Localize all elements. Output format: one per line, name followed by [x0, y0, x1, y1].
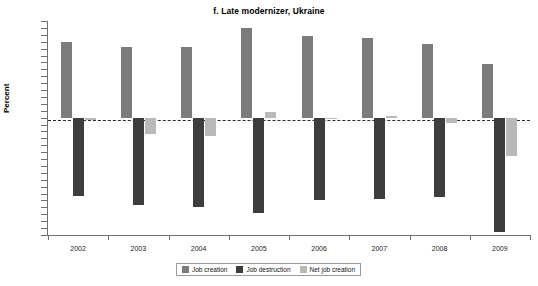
x-axis-tick — [530, 235, 531, 240]
legend-label: Job destruction — [246, 266, 290, 273]
y-axis-tick — [41, 97, 47, 98]
x-axis-tick — [108, 235, 109, 240]
legend-label: Net job creation — [310, 266, 356, 273]
bar-job-creation — [482, 64, 493, 118]
y-axis-tick — [41, 62, 47, 63]
bar-job-destruction — [133, 118, 144, 205]
bar-net-job-creation — [506, 118, 517, 156]
x-axis-tick-label: 2009 — [470, 245, 530, 252]
x-axis-tick-label: 2003 — [108, 245, 168, 252]
y-axis-tick — [41, 21, 47, 22]
y-axis-tick — [41, 69, 47, 70]
y-axis-tick — [41, 83, 47, 84]
zero-reference-line — [48, 120, 530, 121]
bar-job-destruction — [193, 118, 204, 207]
y-axis-tick — [41, 200, 47, 201]
bar-job-creation — [422, 44, 433, 118]
bar-job-creation — [362, 38, 373, 117]
y-axis-tick — [41, 235, 47, 236]
legend-swatch-icon — [300, 266, 307, 273]
y-axis-tick — [41, 145, 47, 146]
y-axis-tick — [41, 228, 47, 229]
legend-item[interactable]: Job creation — [182, 266, 227, 273]
x-axis-tick — [229, 235, 230, 240]
x-axis-tick — [169, 235, 170, 240]
bar-job-destruction — [314, 118, 325, 201]
y-axis-tick — [41, 194, 47, 195]
y-axis-tick — [41, 159, 47, 160]
y-axis-tick — [41, 111, 47, 112]
y-axis-tick — [41, 138, 47, 139]
y-axis-tick — [41, 49, 47, 50]
y-axis-tick — [41, 221, 47, 222]
y-axis-tick — [41, 152, 47, 153]
chart-legend: Job creationJob destructionNet job creat… — [176, 263, 361, 276]
y-axis-tick — [41, 180, 47, 181]
y-axis-tick — [41, 90, 47, 91]
bar-net-job-creation — [205, 118, 216, 136]
y-axis-tick — [41, 104, 47, 105]
legend-item[interactable]: Net job creation — [300, 266, 356, 273]
bar-job-creation — [241, 28, 252, 118]
y-axis-tick — [41, 76, 47, 77]
y-axis-tick — [41, 173, 47, 174]
bar-job-creation — [302, 36, 313, 117]
bar-net-job-creation — [145, 118, 156, 134]
y-axis-tick — [41, 214, 47, 215]
x-axis-tick-label: 2007 — [349, 245, 409, 252]
bar-net-job-creation — [265, 112, 276, 118]
bar-job-creation — [121, 47, 132, 118]
bar-net-job-creation — [446, 118, 457, 124]
bar-job-destruction — [73, 118, 84, 196]
y-axis-tick — [41, 28, 47, 29]
y-axis-tick — [41, 187, 47, 188]
y-axis-tick — [41, 118, 47, 119]
chart-container: f. Late modernizer, Ukraine Percent 1413… — [0, 0, 538, 286]
y-axis-tick — [41, 42, 47, 43]
bar-job-destruction — [434, 118, 445, 197]
y-axis-tick — [41, 35, 47, 36]
x-axis-tick-label: 2008 — [410, 245, 470, 252]
legend-label: Job creation — [192, 266, 227, 273]
x-axis-tick — [349, 235, 350, 240]
bar-net-job-creation — [386, 116, 397, 118]
x-axis-tick — [48, 235, 49, 240]
x-axis-tick-label: 2004 — [169, 245, 229, 252]
x-axis-tick-label: 2002 — [48, 245, 108, 252]
y-axis-tick — [41, 207, 47, 208]
y-axis-tick — [41, 166, 47, 167]
bar-job-destruction — [374, 118, 385, 199]
y-axis-tick — [41, 125, 47, 126]
x-axis-tick — [470, 235, 471, 240]
x-axis-tick — [289, 235, 290, 240]
y-axis-tick-labels: 14131211109876543210-1-2-3-4-5-6-7-8-9-1… — [0, 0, 40, 286]
bar-job-creation — [61, 42, 72, 118]
bar-job-destruction — [253, 118, 264, 213]
x-axis-tick-label: 2005 — [229, 245, 289, 252]
chart-title: f. Late modernizer, Ukraine — [0, 6, 538, 16]
legend-item[interactable]: Job destruction — [236, 266, 290, 273]
legend-swatch-icon — [182, 266, 189, 273]
bar-job-destruction — [494, 118, 505, 232]
x-axis-tick-label: 2006 — [289, 245, 349, 252]
x-axis-tick — [410, 235, 411, 240]
y-axis-tick — [41, 56, 47, 57]
y-axis-tick — [41, 131, 47, 132]
bar-net-job-creation — [85, 118, 96, 120]
bar-job-creation — [181, 47, 192, 118]
bar-net-job-creation — [326, 118, 337, 119]
legend-swatch-icon — [236, 266, 243, 273]
